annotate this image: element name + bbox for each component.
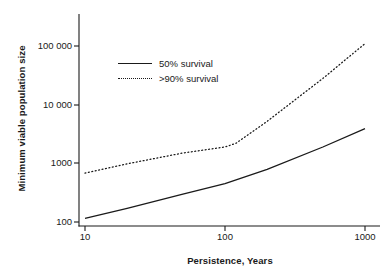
legend-item-gt-90-percent-survival: >90% survival <box>118 71 218 86</box>
x-axis-title: Persistence, Years <box>79 255 381 266</box>
chart-legend: 50% survival >90% survival <box>118 56 218 86</box>
legend-item-50-percent-survival: 50% survival <box>118 56 218 71</box>
legend-label-50-percent-survival: 50% survival <box>152 58 213 69</box>
y-axis-ticks <box>74 46 79 222</box>
legend-line-dotted-icon <box>118 74 152 84</box>
legend-line-solid-icon <box>118 59 152 69</box>
series-50-percent-survival <box>85 129 365 219</box>
chart-figure: Minimum viable population size 100 000 1… <box>0 0 392 279</box>
x-axis-ticks <box>85 226 365 231</box>
legend-label-gt-90-percent-survival: >90% survival <box>152 73 218 84</box>
plot-canvas <box>0 0 392 279</box>
